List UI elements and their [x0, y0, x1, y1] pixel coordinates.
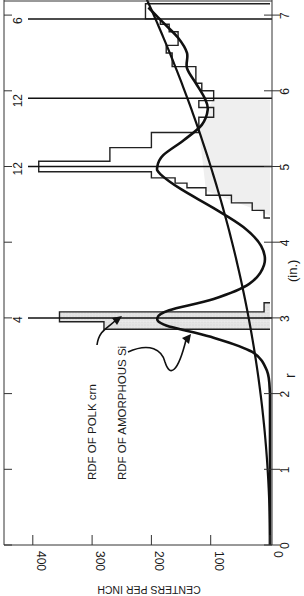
- y-tick-label: 100: [212, 551, 226, 571]
- x-axis-label: r: [282, 373, 298, 378]
- y-tick-label: 300: [93, 551, 107, 571]
- arrow-si: [128, 340, 186, 371]
- r-tick-label: 0: [278, 542, 292, 549]
- r-tick-label: 3: [278, 315, 292, 322]
- r-tick-label: 2: [278, 391, 292, 398]
- annotation-polk-crn: RDF OF POLK crn: [86, 384, 98, 480]
- peak-label: 6: [11, 17, 25, 24]
- peak-label: 4: [11, 316, 25, 323]
- x-axis-unit: (in.): [285, 260, 300, 282]
- r-tick-label: 5: [278, 164, 292, 171]
- peak-label: 12: [11, 94, 25, 108]
- average-density-curve: [145, 0, 270, 545]
- rdf-chart: 412126 01234567 0100200300400 RDF OF POL…: [0, 0, 304, 596]
- r-tick-label: 6: [278, 88, 292, 95]
- y-axis-ticks: 0100200300400: [33, 535, 285, 571]
- r-tick-label: 1: [278, 466, 292, 473]
- y-tick-label: 400: [34, 551, 48, 571]
- r-tick-label: 7: [278, 12, 292, 19]
- y-tick-label: 200: [152, 551, 166, 571]
- y-axis-label: CENTERS PER INCH: [97, 584, 200, 596]
- amorphous-si-curve: [148, 8, 270, 545]
- plot-frame: [4, 0, 272, 545]
- peak-label: 12: [11, 162, 25, 176]
- arrow-head-si: [182, 334, 191, 344]
- y-tick-label: 0: [271, 551, 285, 558]
- annotation-amorphous-si: RDF OF AMORPHOUS Si: [116, 346, 128, 480]
- r-tick-label: 4: [278, 239, 292, 246]
- r-axis-ticks: 01234567: [4, 12, 292, 549]
